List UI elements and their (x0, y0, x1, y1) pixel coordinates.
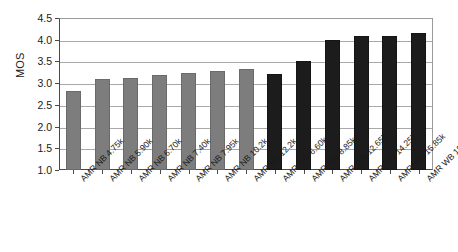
x-tick-label: AMR WB 12.65k (338, 177, 344, 183)
x-tick-label: AMR NB 4.75k (79, 177, 85, 183)
x-tick-label: AMR WB 6.60k (281, 177, 287, 183)
x-tick-label: AMR NB 5.90k (108, 177, 114, 183)
x-tick-label: AMR NB 10.2k (223, 177, 229, 183)
x-tick-label: AMR NB 7.95k (194, 177, 200, 183)
x-tick-label: AMR WB 18.25k (425, 177, 431, 183)
x-tick-label: AMR WB 8.85k (310, 177, 316, 183)
mos-bar-chart: MOS 4.54.03.53.02.52.01.51.0 AMR NB 4.75… (0, 0, 458, 252)
x-tick-label: AMR NB 6.70k (137, 177, 143, 183)
x-tick-label: AMR NB 7.40k (166, 177, 172, 183)
x-axis-labels: AMR NB 4.75kAMR NB 5.90kAMR NB 6.70kAMR … (0, 0, 458, 252)
x-tick-label: AMR WB 15.85k (396, 177, 402, 183)
x-tick-label: AMR NB 12.2k (252, 177, 258, 183)
x-tick-label: AMR WB 14.25k (367, 177, 373, 183)
